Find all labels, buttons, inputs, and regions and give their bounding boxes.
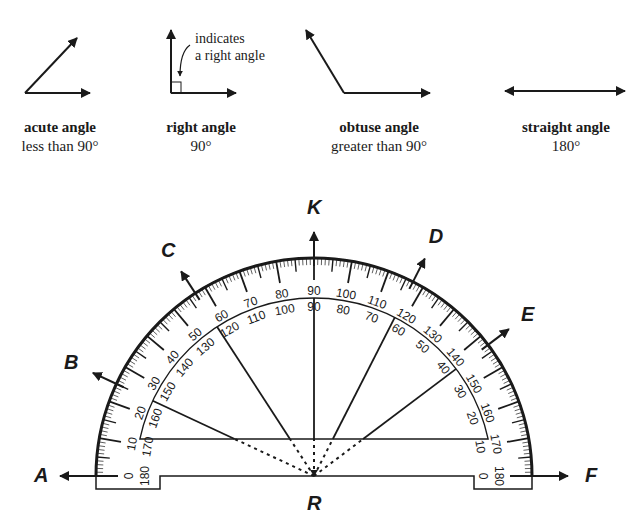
ray-label-b: B — [64, 351, 78, 374]
outer-scale-number: 0 — [122, 472, 136, 479]
outer-scale-number: 10 — [124, 436, 140, 452]
inner-scale-number: 0 — [476, 473, 490, 480]
vertex-label-r: R — [307, 492, 321, 515]
inner-scale-number: 180 — [138, 466, 152, 486]
ray-label-c: C — [161, 239, 175, 262]
ray-label-d: D — [429, 225, 443, 248]
inner-scale-number: 80 — [336, 302, 352, 318]
ray-label-k: K — [307, 196, 321, 219]
outer-scale-number: 80 — [274, 286, 290, 302]
inner-scale-number: 10 — [472, 439, 488, 455]
ray-label-a: A — [34, 464, 48, 487]
outer-scale-number: 180 — [492, 466, 506, 486]
ray-label-f: F — [585, 464, 597, 487]
outer-scale-number: 90 — [307, 284, 321, 298]
protractor-diagram: 0102030405060708090100110120130140150160… — [0, 0, 635, 527]
ray-label-e: E — [521, 303, 534, 326]
